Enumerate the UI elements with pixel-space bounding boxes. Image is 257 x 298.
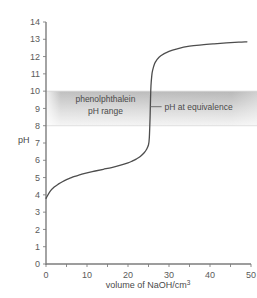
x-tick-label: 50 [246,270,256,280]
y-tick-label: 3 [35,207,40,217]
x-tick-label: 20 [123,270,133,280]
x-tick-label: 40 [205,270,215,280]
equivalence-label: pH at equivalence [165,102,233,112]
plot-background [0,0,257,298]
y-tick-label: 11 [31,69,40,79]
y-tick-label: 14 [30,17,40,27]
y-tick-label: 6 [35,155,40,165]
y-tick-label: 1 [35,242,40,252]
ph-titration-chart: 01234567891011121314 01020304050 pH at e… [0,0,257,298]
y-tick-label: 7 [35,138,40,148]
y-tick-label: 12 [30,52,40,62]
chart-canvas: 01234567891011121314 01020304050 pH at e… [0,0,257,298]
y-tick-label: 9 [35,104,40,114]
x-tick-label: 10 [82,270,92,280]
y-tick-label: 8 [35,121,40,131]
y-tick-label: 13 [30,34,40,44]
y-tick-label: 4 [35,190,40,200]
x-axis-label: volume of NaOH/cm3 [106,279,191,291]
x-tick-label: 30 [164,270,174,280]
phenolphthalein-label-line1: phenolphthalein [75,94,135,104]
phenolphthalein-label-line2: pH range [88,106,123,116]
y-tick-label: 5 [35,173,40,183]
y-axis-label: pH [18,135,30,145]
y-tick-label: 0 [35,259,40,269]
x-tick-label: 0 [43,270,48,280]
y-tick-label: 2 [35,225,40,235]
y-tick-label: 10 [30,86,40,96]
